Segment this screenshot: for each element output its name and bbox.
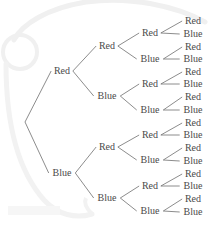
tree-edge <box>118 46 137 59</box>
tree-node-blue: Blue <box>184 54 203 64</box>
tree-node-blue: Blue <box>141 155 160 165</box>
tree-edge <box>163 97 182 110</box>
tree-node-red: Red <box>54 66 70 76</box>
tree-node-red: Red <box>99 142 115 152</box>
tree-edge <box>163 47 182 59</box>
tree-node-blue: Blue <box>98 193 117 203</box>
tree-node-red: Red <box>185 42 201 52</box>
tree-edge <box>120 96 136 110</box>
tree-node-blue: Blue <box>141 54 160 64</box>
tree-edge <box>161 21 182 33</box>
tree-node-red: Red <box>185 143 201 153</box>
tree-node-blue: Blue <box>184 207 203 217</box>
tree-node-red: Red <box>185 16 201 26</box>
tree-edge <box>120 186 139 198</box>
tree-node-blue: Blue <box>184 105 203 115</box>
tree-diagram-canvas: RedBlueRedBlueRedBlueRedBlueRedBlueRedBl… <box>0 0 214 225</box>
tree-node-red: Red <box>142 28 158 38</box>
tree-node-red: Red <box>185 92 201 102</box>
tree-node-red: Red <box>185 194 201 204</box>
tree-node-blue: Blue <box>184 79 203 89</box>
tree-edge <box>163 199 182 211</box>
tree-edge <box>163 211 179 212</box>
tree-node-blue: Blue <box>141 105 160 115</box>
tree-node-red: Red <box>142 79 158 89</box>
tree-node-red: Red <box>142 130 158 140</box>
tree-edge <box>161 174 182 186</box>
tree-node-blue: Blue <box>184 181 203 191</box>
tree-node-blue: Blue <box>184 29 203 39</box>
tree-node-blue: Blue <box>184 130 203 140</box>
tree-edge <box>163 160 179 161</box>
tree-node-red: Red <box>99 41 115 51</box>
tree-edge <box>25 122 49 173</box>
tree-node-red: Red <box>185 67 201 77</box>
tree-node-blue: Blue <box>141 206 160 216</box>
tree-edge <box>120 84 139 96</box>
tree-edge <box>118 33 139 46</box>
tree-edge <box>75 147 96 173</box>
tree-edge <box>118 147 137 160</box>
tree-edge <box>161 72 182 84</box>
tree-node-blue: Blue <box>53 168 72 178</box>
tree-edge <box>163 148 182 160</box>
tree-edge <box>161 33 180 34</box>
tree-edge <box>73 71 94 96</box>
tree-edge <box>73 46 96 71</box>
tree-edge <box>25 71 51 122</box>
tree-node-blue: Blue <box>184 156 203 166</box>
tree-node-blue: Blue <box>98 91 117 101</box>
tree-node-red: Red <box>185 118 201 128</box>
tree-node-red: Red <box>185 169 201 179</box>
tree-edge <box>75 173 93 198</box>
tree-edge <box>118 135 139 147</box>
tree-node-red: Red <box>142 181 158 191</box>
tree-edge <box>120 198 136 211</box>
tree-edge <box>161 123 182 135</box>
